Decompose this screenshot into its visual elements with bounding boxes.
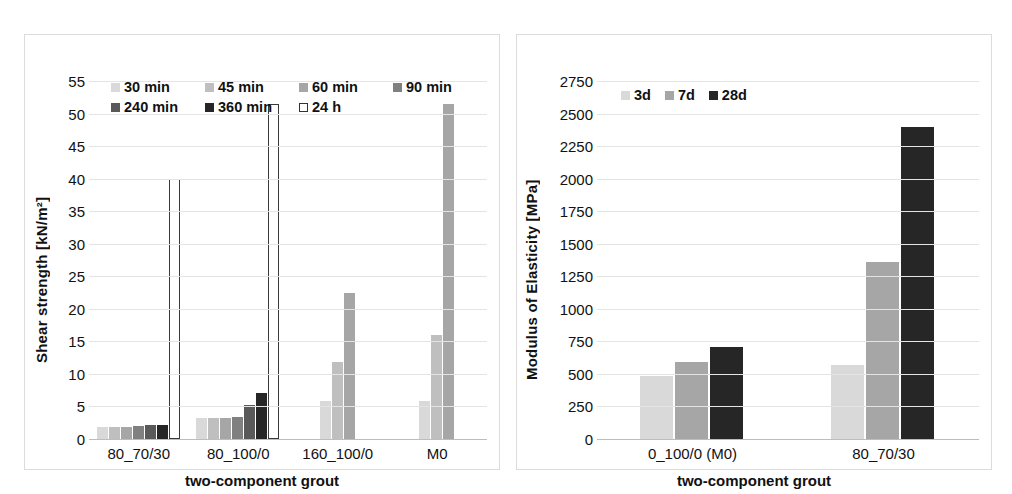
bar	[431, 335, 442, 439]
bar	[256, 393, 267, 439]
x-axis-label-left: two-component grout	[25, 472, 499, 489]
legend-item[interactable]: 7d	[665, 87, 695, 103]
y-tick-label: 1750	[560, 203, 593, 220]
legend-label: 3d	[634, 87, 651, 103]
bar-group	[788, 81, 979, 439]
x-tick-label: 160_100/0	[302, 445, 373, 462]
legend-item[interactable]: 3d	[621, 87, 651, 103]
legend-label: 30 min	[124, 79, 170, 95]
x-axis-ticks-right: 0_100/0 (M0)80_70/30	[517, 445, 991, 465]
legend-swatch-icon	[205, 103, 214, 112]
legend-swatch-icon	[111, 83, 120, 92]
gridline	[89, 179, 487, 180]
gridline	[89, 276, 487, 277]
legend-swatch-icon	[393, 83, 402, 92]
legend-label: 90 min	[406, 79, 452, 95]
y-tick-label: 1500	[560, 235, 593, 252]
y-axis-label-right: Modulus of Elasticity [MPa]	[521, 135, 541, 425]
legend-swatch-icon	[299, 83, 308, 92]
gridline	[597, 114, 979, 115]
gridline	[89, 211, 487, 212]
y-tick-label: 15	[68, 333, 85, 350]
bar	[145, 425, 156, 439]
y-axis-label-left: Shear strength [kN/m²]	[31, 155, 51, 405]
bar-group	[597, 81, 788, 439]
y-tick-label: 35	[68, 203, 85, 220]
y-tick-label: 1000	[560, 300, 593, 317]
legend-label: 45 min	[218, 79, 264, 95]
gridlines-right	[597, 81, 979, 439]
gridline	[89, 146, 487, 147]
legend-label: 28d	[722, 87, 747, 103]
gridline	[89, 309, 487, 310]
y-tick-label: 10	[68, 365, 85, 382]
gridline	[89, 439, 487, 440]
legend-item[interactable]: 360 min	[205, 99, 299, 115]
legend-item[interactable]: 30 min	[111, 79, 205, 95]
legend-item[interactable]: 240 min	[111, 99, 205, 115]
y-axis-ticks-right: 2750250022502000175015001250100075050025…	[541, 35, 593, 469]
legend-item[interactable]: 60 min	[299, 79, 393, 95]
bar-series-left	[89, 81, 487, 439]
bar	[220, 418, 231, 439]
legend-item[interactable]: 28d	[709, 87, 747, 103]
legend-item[interactable]: 45 min	[205, 79, 299, 95]
gridline	[597, 276, 979, 277]
bar	[109, 427, 120, 439]
gridlines-left	[89, 81, 487, 439]
legend-label: 360 min	[218, 99, 272, 115]
gridline	[597, 81, 979, 82]
y-tick-label: 1250	[560, 268, 593, 285]
y-tick-label: 45	[68, 138, 85, 155]
x-tick-label: M0	[427, 445, 448, 462]
x-tick-label: 80_100/0	[207, 445, 270, 462]
y-tick-label: 500	[568, 365, 593, 382]
bar	[232, 417, 243, 439]
bar-series-right	[597, 81, 979, 439]
bar	[443, 104, 454, 439]
bar	[133, 426, 144, 439]
x-tick-label: 80_70/30	[107, 445, 170, 462]
legend-swatch-icon	[621, 91, 630, 100]
bar-group	[89, 81, 189, 439]
legend-item[interactable]: 24 h	[299, 99, 393, 115]
bar	[710, 347, 743, 439]
legend-label: 24 h	[312, 99, 341, 115]
y-tick-label: 2250	[560, 138, 593, 155]
y-tick-label: 750	[568, 333, 593, 350]
y-tick-label: 2500	[560, 105, 593, 122]
legend-swatch-icon	[299, 103, 308, 112]
y-tick-label: 55	[68, 73, 85, 90]
y-tick-label: 50	[68, 105, 85, 122]
bar	[268, 104, 279, 439]
legend-item[interactable]: 90 min	[393, 79, 487, 95]
bar	[901, 127, 934, 439]
plot-area-left: Shear strength [kN/m²] 55504540353025201…	[25, 35, 499, 469]
x-axis-ticks-left: 80_70/3080_100/0160_100/0M0	[25, 445, 499, 465]
gridline	[597, 244, 979, 245]
bar	[866, 262, 899, 439]
plot-area-right: Modulus of Elasticity [MPa] 275025002250…	[517, 35, 991, 469]
gridline	[597, 179, 979, 180]
legend-swatch-icon	[665, 91, 674, 100]
bar-group	[189, 81, 289, 439]
legend-right: 3d7d28d	[621, 87, 881, 103]
gridline	[597, 374, 979, 375]
legend-swatch-icon	[709, 91, 718, 100]
y-tick-label: 2750	[560, 73, 593, 90]
bar	[344, 293, 355, 439]
bar	[196, 418, 207, 439]
y-tick-label: 25	[68, 268, 85, 285]
legend-swatch-icon	[111, 103, 120, 112]
figure-container: Shear strength [kN/m²] 55504540353025201…	[0, 0, 1012, 494]
y-tick-label: 250	[568, 398, 593, 415]
y-tick-label: 2000	[560, 170, 593, 187]
gridline	[597, 146, 979, 147]
bar-group	[388, 81, 488, 439]
y-tick-label: 5	[77, 398, 85, 415]
gridline	[597, 341, 979, 342]
bar	[157, 425, 168, 439]
legend-label: 60 min	[312, 79, 358, 95]
chart-panel-modulus-elasticity: Modulus of Elasticity [MPa] 275025002250…	[516, 34, 992, 470]
y-tick-label: 40	[68, 170, 85, 187]
